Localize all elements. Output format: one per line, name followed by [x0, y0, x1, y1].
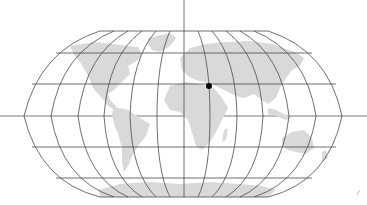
antarctica	[98, 182, 276, 197]
location-marker-dot[interactable]	[206, 83, 212, 89]
world-map	[0, 0, 367, 205]
madagascar	[222, 128, 228, 142]
corner-mark: /	[357, 188, 359, 197]
meridian	[157, 31, 170, 197]
south-america	[112, 107, 150, 172]
land-masses	[70, 33, 328, 197]
north-america	[70, 42, 142, 100]
new-zealand	[322, 150, 328, 162]
